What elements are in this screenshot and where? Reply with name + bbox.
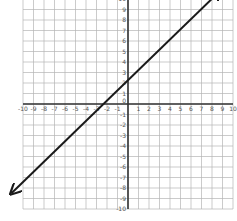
- x-tick-label: 6: [189, 105, 193, 112]
- y-tick-label: 6: [122, 37, 126, 44]
- x-tick-label: 1: [137, 105, 141, 112]
- y-tick-label: -2: [120, 121, 126, 128]
- y-tick-label: -6: [120, 163, 126, 170]
- line-series: [11, 0, 220, 193]
- y-tick-label: 3: [122, 69, 126, 76]
- y-tick-label: 9: [122, 6, 126, 13]
- y-tick-label: 8: [122, 16, 126, 23]
- x-tick-label: 8: [210, 105, 214, 112]
- y-tick-label: -8: [120, 184, 126, 191]
- y-tick-label: -9: [120, 195, 126, 202]
- x-tick-label: 7: [200, 105, 204, 112]
- y-tick-label: -7: [120, 174, 126, 181]
- x-tick-label: 4: [168, 105, 172, 112]
- coordinate-plane: -10-9-8-7-6-5-4-3-2-112345678910 -10-9-8…: [0, 0, 237, 221]
- y-tick-label: 10: [118, 0, 126, 2]
- line-y-equals-x-plus-2: [11, 0, 220, 193]
- x-tick-label: 9: [221, 105, 225, 112]
- y-tick-label: -3: [120, 132, 126, 139]
- y-tick-label: -10: [116, 205, 126, 212]
- x-tick-label: -5: [73, 105, 79, 112]
- y-tick-label: 1: [122, 90, 126, 97]
- y-tick-label: -1: [120, 111, 126, 118]
- y-tick-label: -4: [120, 142, 126, 149]
- x-tick-label: -8: [41, 105, 47, 112]
- x-tick-label: -4: [83, 105, 89, 112]
- x-tick-label: 3: [158, 105, 162, 112]
- y-tick-label: -5: [120, 153, 126, 160]
- x-tick-label: -10: [18, 105, 28, 112]
- x-tick-label: -6: [62, 105, 68, 112]
- y-tick-label: 5: [122, 48, 126, 55]
- x-tick-label: 10: [229, 105, 237, 112]
- y-tick-label: 4: [122, 58, 126, 65]
- x-tick-label: -9: [31, 105, 37, 112]
- x-tick-label: 5: [179, 105, 183, 112]
- y-tick-label: 7: [122, 27, 126, 34]
- x-tick-label: 2: [147, 105, 151, 112]
- x-tick-label: -2: [104, 105, 110, 112]
- x-tick-label: -7: [52, 105, 58, 112]
- y-tick-label: 0: [122, 97, 126, 104]
